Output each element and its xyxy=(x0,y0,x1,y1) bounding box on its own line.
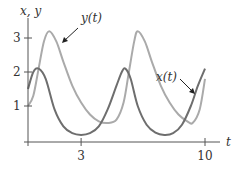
x-tick-label: 3 xyxy=(77,149,85,163)
y-ticks: 123 xyxy=(13,31,32,113)
x-tick-label: 10 xyxy=(197,149,212,163)
y-tick-label: 1 xyxy=(13,99,21,113)
curves xyxy=(28,31,205,135)
x-curve-arrow xyxy=(180,79,192,91)
y-tick-label: 3 xyxy=(13,31,21,45)
y-axis-label: x, y xyxy=(20,4,41,18)
chart: 123 310 x, y t y(t) x(t) xyxy=(0,0,244,172)
x-curve-label: x(t) xyxy=(156,70,177,84)
y-tick-label: 2 xyxy=(13,65,21,79)
x-curve-line xyxy=(28,68,205,135)
x-axis-label: t xyxy=(226,135,231,149)
y-curve-arrow xyxy=(64,28,78,41)
y-curve-label: y(t) xyxy=(80,11,102,25)
